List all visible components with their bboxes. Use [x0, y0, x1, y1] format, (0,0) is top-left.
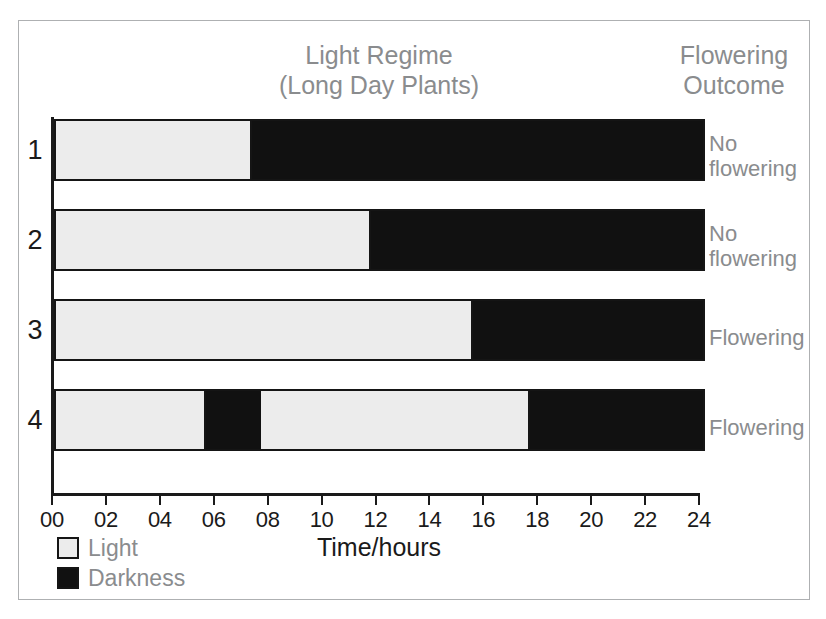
legend: LightDarkness: [57, 533, 185, 593]
x-axis-tick-label: 16: [463, 507, 503, 533]
x-axis-tick: [321, 496, 323, 505]
x-axis-tick-label: 06: [194, 507, 234, 533]
light-period-segment: [56, 121, 250, 179]
x-axis-tick: [590, 496, 592, 505]
x-axis-tick-label: 08: [248, 507, 288, 533]
x-axis-tick-label: 18: [517, 507, 557, 533]
light-period-segment: [56, 211, 369, 269]
row-number-label: 1: [21, 135, 49, 166]
legend-item: Light: [57, 533, 185, 563]
x-axis-tick-label: 10: [302, 507, 342, 533]
legend-item-label: Light: [88, 535, 138, 562]
x-axis-tick: [267, 496, 269, 505]
x-axis-title: Time/hours: [259, 533, 499, 562]
table-row: [54, 119, 705, 181]
dark-period-segment: [528, 391, 703, 449]
x-axis-tick-label: 04: [140, 507, 180, 533]
x-axis-tick: [428, 496, 430, 505]
dark-period-segment: [369, 211, 703, 269]
flowering-outcome-label: Flowering: [709, 325, 824, 350]
x-axis-tick: [482, 496, 484, 505]
x-axis-tick-label: 12: [356, 507, 396, 533]
dark-period-segment: [204, 391, 261, 449]
x-axis-tick: [105, 496, 107, 505]
dark-period-segment: [250, 121, 703, 179]
x-axis-tick: [51, 496, 53, 505]
plot-area: 00020406081012141618202224 1No flowering…: [19, 21, 811, 601]
treatment-bar: [54, 209, 705, 271]
x-axis-tick: [375, 496, 377, 505]
x-axis-tick-label: 02: [86, 507, 126, 533]
legend-item: Darkness: [57, 563, 185, 593]
light-period-segment: [261, 391, 528, 449]
x-axis-tick: [536, 496, 538, 505]
row-number-label: 2: [21, 225, 49, 256]
x-axis-tick-label: 24: [679, 507, 719, 533]
treatment-bar: [54, 389, 705, 451]
flowering-outcome-label: Flowering: [709, 415, 824, 440]
x-axis-tick: [644, 496, 646, 505]
light-swatch-icon: [57, 537, 79, 559]
x-axis-tick-label: 22: [625, 507, 665, 533]
row-number-label: 4: [21, 405, 49, 436]
x-axis-tick-label: 20: [571, 507, 611, 533]
row-number-label: 3: [21, 315, 49, 346]
legend-item-label: Darkness: [88, 565, 185, 592]
table-row: [54, 389, 705, 451]
light-period-segment: [56, 391, 204, 449]
table-row: [54, 209, 705, 271]
treatment-bar: [54, 299, 705, 361]
table-row: [54, 299, 705, 361]
x-axis-tick: [213, 496, 215, 505]
flowering-outcome-label: No flowering: [709, 131, 824, 182]
x-axis-tick: [698, 496, 700, 505]
figure-panel: Light Regime (Long Day Plants) Flowering…: [18, 20, 810, 600]
treatment-bar: [54, 119, 705, 181]
flowering-outcome-label: No flowering: [709, 221, 824, 272]
x-axis-tick: [159, 496, 161, 505]
darkness-swatch-icon: [57, 567, 79, 589]
x-axis-tick-label: 14: [409, 507, 449, 533]
x-axis-tick-label: 00: [32, 507, 72, 533]
light-period-segment: [56, 301, 471, 359]
dark-period-segment: [471, 301, 703, 359]
